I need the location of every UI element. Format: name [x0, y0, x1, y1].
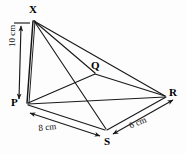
edge-Q-R: [95, 74, 165, 96]
figure-canvas: [0, 0, 186, 154]
lateral-edges: [27, 21, 165, 129]
vertex-label-s: S: [104, 136, 110, 147]
vertex-label-p: P: [11, 97, 18, 108]
edge-X-S: [34, 21, 106, 129]
vertex-label-r: R: [169, 87, 177, 98]
vertex-label-q: Q: [91, 60, 100, 71]
vertex-label-x: X: [29, 4, 37, 15]
dimension-line-10cm: [19, 26, 21, 99]
dimension-label-base-left: 8 cm: [38, 122, 57, 133]
edge-P-R-diagonal: [28, 97, 165, 104]
edge-P-Q: [28, 74, 95, 103]
geometry-figure: X P Q R S 10 cm 8 cm 6 cm: [0, 0, 186, 154]
dimension-label-height: 10 cm: [8, 25, 17, 47]
edge-X-Q: [34, 21, 95, 73]
